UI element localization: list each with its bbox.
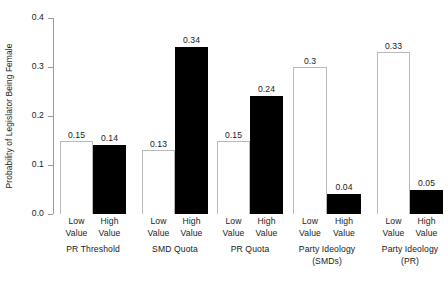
bar-value-label: 0.05 — [418, 178, 435, 188]
bar-value-label: 0.24 — [258, 84, 275, 94]
bar-group: 0.330.05 — [377, 18, 443, 214]
y-axis-tick-label: 0.3 — [18, 62, 44, 71]
bar: 0.14 — [93, 145, 126, 214]
bar-value-label: 0.15 — [225, 130, 242, 140]
bar: 0.33 — [377, 52, 410, 214]
bar-group: 0.150.14 — [60, 18, 126, 214]
x-axis-tick-label: LowValue — [293, 216, 327, 239]
bar: 0.15 — [60, 141, 93, 215]
bar: 0.3 — [293, 67, 327, 214]
bar-value-label: 0.04 — [335, 182, 352, 192]
y-axis-tick-label: 0.4 — [18, 13, 44, 22]
x-axis-group-name: SMD Quota — [152, 244, 198, 256]
x-axis-tick-label: HighValue — [93, 216, 126, 239]
x-axis-tick-label: HighValue — [250, 216, 283, 239]
plot-area: 0.150.140.130.340.150.240.30.040.330.05 — [53, 18, 448, 214]
y-axis-tick-label: 0.2 — [18, 111, 44, 120]
bar-value-label: 0.15 — [68, 130, 85, 140]
y-axis-title: Probability of Legislator Being Female — [2, 18, 16, 214]
y-axis-title-text: Probability of Legislator Being Female — [4, 44, 14, 189]
x-axis-tick-label: HighValue — [327, 216, 361, 239]
x-axis-labels: LowValueHighValuePR ThresholdLowValueHig… — [53, 215, 448, 283]
bar-value-label: 0.33 — [385, 41, 402, 51]
x-axis-group-name: Party Ideology(SMDs) — [299, 244, 355, 267]
x-axis-group-name: Party Ideology(PR) — [382, 244, 438, 267]
bar-value-label: 0.13 — [150, 139, 167, 149]
bar: 0.24 — [250, 96, 283, 214]
bar-group: 0.150.24 — [217, 18, 283, 214]
bar-value-label: 0.34 — [183, 35, 200, 45]
bar-chart: Probability of Legislator Being Female 0… — [0, 0, 448, 283]
bar: 0.13 — [142, 150, 175, 214]
bar: 0.04 — [327, 194, 361, 214]
x-axis-tick-label: LowValue — [217, 216, 250, 239]
bar: 0.34 — [175, 47, 208, 214]
x-axis-tick-label: HighValue — [175, 216, 208, 239]
bar-group: 0.130.34 — [142, 18, 208, 214]
x-axis-tick-label: LowValue — [377, 216, 410, 239]
bar-group: 0.30.04 — [293, 18, 361, 214]
y-axis-tick-label: 0.1 — [18, 160, 44, 169]
x-axis-tick-label: HighValue — [410, 216, 443, 239]
bar-value-label: 0.14 — [101, 133, 118, 143]
bar: 0.05 — [410, 190, 443, 215]
x-axis-tick-label: LowValue — [142, 216, 175, 239]
x-axis-tick-label: LowValue — [60, 216, 93, 239]
bar: 0.15 — [217, 141, 250, 215]
x-axis-group-name: PR Threshold — [66, 244, 120, 256]
x-axis-group-name: PR Quota — [231, 244, 270, 256]
y-axis-tick-label: 0.0 — [18, 209, 44, 218]
bar-value-label: 0.3 — [304, 56, 316, 66]
